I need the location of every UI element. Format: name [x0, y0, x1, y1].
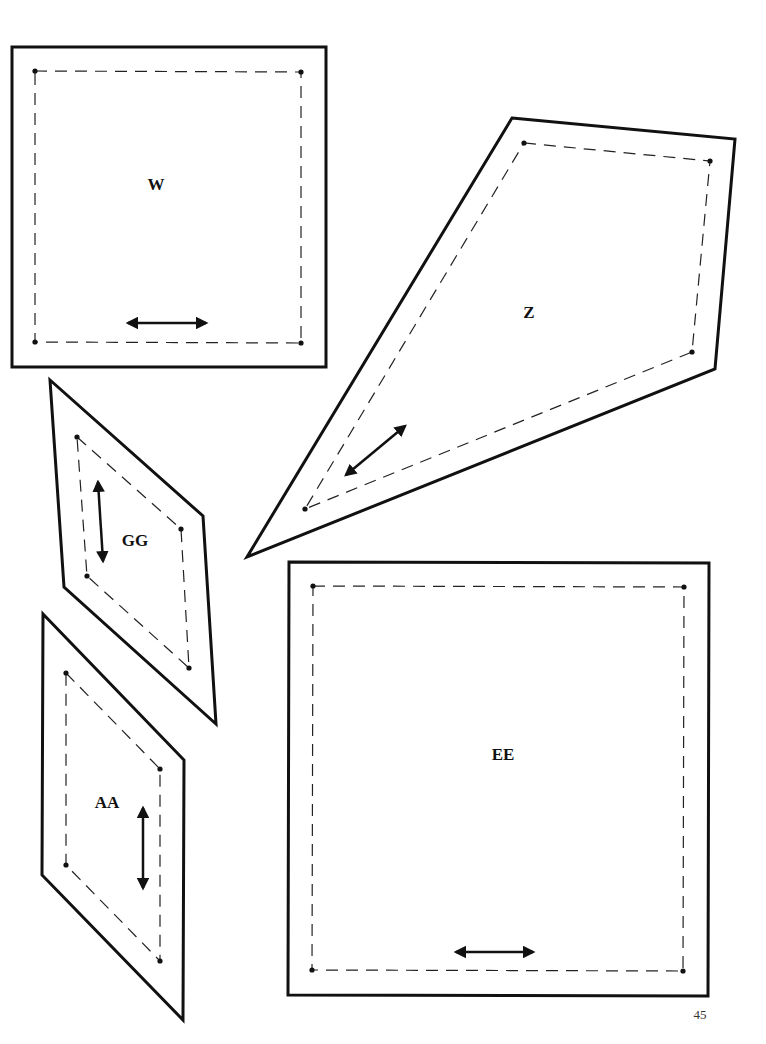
piece-label: AA [95, 793, 120, 812]
corner-dot-icon [157, 766, 162, 771]
cutting-line [247, 118, 735, 557]
seam-line [66, 673, 160, 961]
corner-dot-icon [32, 339, 37, 344]
corner-dot-icon [157, 958, 162, 963]
pattern-pieces: WZGGAAEE [12, 47, 735, 1020]
page-number: 45 [694, 1007, 707, 1022]
corner-dot-icon [298, 69, 303, 74]
grainline-arrow-icon [98, 482, 103, 561]
corner-dot-icon [689, 349, 694, 354]
cutting-line [12, 47, 326, 367]
pattern-piece-ee: EE [288, 562, 709, 996]
pattern-piece-w: W [12, 47, 326, 367]
seam-line [312, 586, 684, 971]
pattern-piece-gg: GG [50, 380, 216, 724]
corner-dot-icon [681, 584, 686, 589]
corner-dot-icon [310, 583, 315, 588]
corner-dot-icon [63, 862, 68, 867]
corner-dot-icon [707, 158, 712, 163]
piece-label: Z [523, 303, 534, 322]
corner-dot-icon [298, 340, 303, 345]
corner-dot-icon [302, 506, 307, 511]
seam-line [305, 143, 710, 509]
corner-dot-icon [84, 573, 89, 578]
corner-dot-icon [63, 670, 68, 675]
corner-dot-icon [74, 434, 79, 439]
corner-dot-icon [32, 68, 37, 73]
seam-line [77, 437, 189, 668]
pattern-page: WZGGAAEE 45 [0, 0, 766, 1044]
seam-line [35, 71, 301, 343]
cutting-line [288, 562, 709, 996]
corner-dot-icon [186, 665, 191, 670]
pattern-piece-z: Z [247, 118, 735, 557]
corner-dot-icon [680, 968, 685, 973]
corner-dot-icon [309, 967, 314, 972]
piece-label: EE [492, 745, 515, 764]
piece-label: GG [122, 531, 148, 550]
corner-dot-icon [178, 526, 183, 531]
grainline-arrow-icon [346, 426, 405, 475]
cutting-line [50, 380, 216, 724]
corner-dot-icon [521, 140, 526, 145]
piece-label: W [148, 175, 165, 194]
